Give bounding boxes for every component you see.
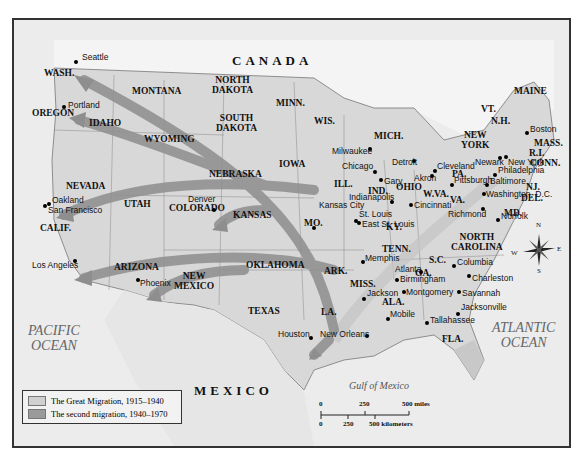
city-label: Columbia — [457, 258, 493, 267]
legend-label: The Great Migration, 1915–1940 — [51, 396, 164, 406]
scale-miles-0: 0 — [319, 401, 323, 408]
city-label: San Francisco — [48, 206, 102, 215]
city-label: Montgomery — [406, 288, 453, 297]
scale-km-500: 500 kilometers — [369, 421, 413, 428]
city-label: Jacksonville — [461, 303, 507, 312]
compass-e: E — [557, 246, 561, 253]
state-label-mich: MICH. — [374, 132, 403, 142]
state-label-texas: TEXAS — [248, 307, 280, 317]
city-label: Tallahassee — [430, 316, 475, 325]
city-dot-icon — [525, 131, 529, 135]
scale-km-0: 0 — [319, 421, 323, 428]
state-label-fla: FLA. — [442, 335, 463, 345]
legend-item-great-migration: The Great Migration, 1915–1940 — [28, 394, 176, 407]
city-label: Portland — [68, 101, 100, 110]
state-label-arizona: ARIZONA — [114, 263, 159, 273]
state-label-ala: ALA. — [382, 298, 404, 308]
state-label-ark: ARK. — [324, 267, 348, 277]
state-label-maine: MAINE — [514, 87, 547, 97]
city-dot-icon — [395, 278, 399, 282]
legend-label: The second migration, 1940–1970 — [51, 409, 168, 419]
state-label-nebraska: NEBRASKA — [209, 170, 262, 180]
state-label-idaho: IDAHO — [89, 119, 121, 129]
city-label: Denver — [188, 195, 215, 204]
scale-miles-250: 250 — [359, 401, 370, 408]
state-label-calif: CALIF. — [40, 224, 71, 234]
city-label: Detroit — [392, 158, 417, 167]
city-label: Boston — [530, 125, 556, 134]
city-label: Memphis — [365, 254, 399, 263]
city-dot-icon — [362, 297, 366, 301]
city-label: Norfolk — [501, 212, 528, 221]
state-label-new-mexico: NEW MEXICO — [174, 272, 214, 291]
city-label: Milwaukee — [332, 147, 372, 156]
state-label-wyoming: WYOMING — [144, 135, 195, 145]
state-label-va: VA. — [450, 196, 465, 206]
state-label-north-dakota: NORTH DAKOTA — [212, 76, 253, 95]
city-label: Kansas City — [319, 201, 364, 210]
city-label: Jackson — [367, 289, 398, 298]
legend: The Great Migration, 1915–1940 The secon… — [22, 390, 182, 424]
state-label-montana: MONTANA — [132, 87, 181, 97]
compass-rose-icon: N S E W — [519, 230, 559, 270]
state-label-sc: S.C. — [429, 256, 446, 266]
gulf-label: Gulf of Mexico — [349, 381, 409, 391]
migration-map: CANADA MEXICO PACIFIC OCEAN ATLANTIC OCE… — [12, 18, 571, 448]
city-label: Gary — [384, 177, 402, 186]
city-label: Atlanta — [395, 265, 421, 274]
city-label: Mobile — [390, 310, 415, 319]
city-dot-icon — [452, 264, 456, 268]
country-label-mexico: MEXICO — [194, 384, 273, 397]
state-label-minn: MINN. — [276, 99, 305, 109]
city-label: Birmingham — [400, 275, 445, 284]
state-label-new-york: NEW YORK — [461, 131, 490, 150]
state-label-kansas: KANSAS — [233, 211, 272, 221]
city-label: Baltimore — [490, 177, 526, 186]
city-dot-icon — [467, 274, 471, 278]
city-dot-icon — [496, 218, 500, 222]
city-dot-icon — [373, 170, 377, 174]
ocean-label-pacific: PACIFIC OCEAN — [28, 323, 80, 354]
state-label-utah: UTAH — [124, 200, 151, 210]
state-label-north-carolina: NORTH CAROLINA — [451, 233, 503, 252]
city-dot-icon — [212, 208, 216, 212]
state-label-iowa: IOWA — [279, 160, 305, 170]
city-dot-icon — [312, 226, 316, 230]
city-dot-icon — [425, 321, 429, 325]
city-dot-icon — [43, 204, 47, 208]
state-label-nh: N.H. — [491, 117, 510, 127]
state-label-ill: ILL. — [334, 180, 353, 190]
city-label: Houston — [278, 330, 310, 339]
state-label-south-dakota: SOUTH DAKOTA — [216, 114, 257, 133]
scale-bar: 0 250 500 miles 0 250 500 kilometers — [319, 399, 429, 431]
city-dot-icon — [457, 290, 461, 294]
city-label: Richmond — [448, 210, 486, 219]
scale-miles-500: 500 miles — [402, 401, 430, 408]
city-label: Cleveland — [437, 162, 475, 171]
state-label-wis: WIS. — [314, 117, 335, 127]
compass-w: W — [511, 250, 518, 257]
city-label: Phoenix — [140, 279, 171, 288]
city-label: Cincinnati — [414, 201, 451, 210]
city-label: Washington, D.C. — [486, 190, 552, 199]
city-label: St. Louis — [359, 210, 392, 219]
city-dot-icon — [409, 203, 413, 207]
state-label-colorado: COLORADO — [169, 204, 225, 214]
state-label-la: LA. — [321, 308, 337, 318]
city-dot-icon — [74, 60, 78, 64]
state-label-wash: WASH. — [44, 69, 74, 79]
ocean-label-atlantic: ATLANTIC OCEAN — [492, 320, 555, 351]
legend-item-second-migration: The second migration, 1940–1970 — [28, 407, 176, 420]
legend-swatch-light — [28, 396, 46, 406]
city-dot-icon — [485, 183, 489, 187]
state-label-w-va: W.VA. — [423, 190, 449, 200]
city-label: Chicago — [342, 162, 373, 171]
city-label: Akron — [414, 174, 436, 183]
city-dot-icon — [62, 105, 66, 109]
state-label-vt: VT. — [481, 105, 496, 115]
country-label-canada: CANADA — [232, 54, 312, 67]
city-label: Philadelphia — [498, 166, 544, 175]
city-dot-icon — [379, 178, 383, 182]
scale-km-250: 250 — [343, 421, 354, 428]
city-label: Oakland — [52, 196, 84, 205]
